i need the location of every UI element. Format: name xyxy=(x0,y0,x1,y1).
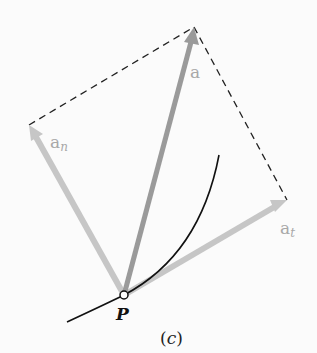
dashed-line-a-to-at xyxy=(194,27,287,200)
label-a: a xyxy=(190,64,200,81)
label-point-p: P xyxy=(116,306,129,323)
dashed-line-an-to-a xyxy=(29,27,194,125)
normal-acceleration-vector xyxy=(29,125,124,295)
acceleration-components-diagram xyxy=(0,0,317,353)
figure-caption: (c) xyxy=(160,330,183,347)
label-at: at xyxy=(280,220,295,239)
point-p-marker xyxy=(120,291,128,299)
tangential-acceleration-vector xyxy=(124,200,287,295)
label-an: an xyxy=(50,134,68,153)
